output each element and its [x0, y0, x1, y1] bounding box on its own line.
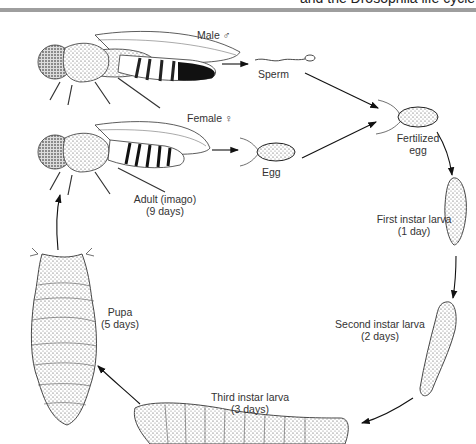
label-first-instar: First instar larva (1 day)	[364, 213, 464, 237]
label-egg: Egg	[262, 166, 281, 178]
second-instar-larva-icon	[420, 302, 456, 396]
label-male: Male ♂	[197, 29, 231, 41]
label-third-instar: Third instar larva (3 days)	[205, 391, 295, 415]
label-adult: Adult (imago) (9 days)	[120, 193, 210, 217]
label-pupa: Pupa (5 days)	[99, 306, 141, 330]
label-fertilized-egg: Fertilized egg	[393, 132, 443, 156]
male-fly-icon	[38, 31, 240, 108]
pupa-icon	[30, 248, 97, 425]
sperm-icon	[255, 59, 305, 61]
cycle-arrows	[57, 64, 456, 423]
female-fly-icon	[38, 122, 210, 195]
egg-icon	[240, 138, 295, 166]
fertilized-egg-icon	[376, 100, 438, 134]
label-sperm: Sperm	[258, 68, 289, 80]
life-cycle-diagram: and the Drosophila life cycle	[0, 0, 476, 444]
label-female: Female ♀	[187, 112, 233, 124]
label-second-instar: Second instar larva (2 days)	[325, 318, 435, 342]
